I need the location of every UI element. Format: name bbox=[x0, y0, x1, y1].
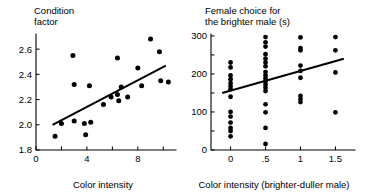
y-tick-label: 2.6 bbox=[19, 44, 32, 55]
scatter-point bbox=[135, 66, 140, 71]
x-tick-label: 1 bbox=[298, 153, 303, 164]
y-tick-label: 100 bbox=[191, 106, 207, 117]
y-tick-label: 200 bbox=[191, 68, 207, 79]
scatter-point bbox=[115, 92, 120, 97]
scatter-point bbox=[228, 114, 233, 119]
scatter-point bbox=[263, 126, 268, 131]
axis-frame bbox=[36, 34, 176, 150]
scatter-point bbox=[263, 64, 268, 69]
x-tick-label: 1.5 bbox=[329, 153, 342, 164]
scatter-point bbox=[333, 70, 338, 75]
scatter-point bbox=[263, 89, 268, 94]
scatter-point bbox=[333, 110, 338, 115]
scatter-point bbox=[59, 121, 64, 126]
scatter-point bbox=[116, 98, 121, 103]
x-tick-label: 8 bbox=[135, 153, 140, 164]
x-tick-label: 0 bbox=[33, 153, 38, 164]
panel-title-line-1: Condition bbox=[34, 5, 74, 16]
scatter-point bbox=[298, 35, 303, 40]
y-tick-label: 2.4 bbox=[19, 69, 32, 80]
scatter-points bbox=[228, 35, 338, 147]
scatter-point bbox=[82, 121, 87, 126]
panel-title-line-2: the brighter male (s) bbox=[205, 16, 290, 27]
scatter-point bbox=[263, 44, 268, 49]
y-tick-label: 2.0 bbox=[19, 119, 32, 130]
scatter-point bbox=[88, 120, 93, 125]
scatter-point bbox=[228, 110, 233, 115]
scatter-point bbox=[83, 132, 88, 137]
scatter-point bbox=[228, 65, 233, 70]
scatter-point bbox=[166, 79, 171, 84]
scatter-point bbox=[263, 102, 268, 107]
scatter-point bbox=[139, 83, 144, 88]
scatter-point bbox=[125, 95, 130, 100]
scatter-point bbox=[298, 68, 303, 73]
scatter-point bbox=[298, 75, 303, 80]
scatter-point bbox=[87, 83, 92, 88]
scatter-point bbox=[333, 48, 338, 53]
scatter-point bbox=[263, 142, 268, 147]
scatter-point bbox=[115, 55, 120, 60]
scatter-point bbox=[263, 40, 268, 45]
regression-line bbox=[53, 66, 166, 125]
panel-female-choice: Female choice for the brighter male (s) … bbox=[183, 0, 366, 195]
panel-title-line-2: factor bbox=[34, 16, 58, 27]
scatter-point bbox=[263, 52, 268, 57]
x-axis-tick-labels: 0.511.5 bbox=[228, 153, 342, 164]
scatter-point bbox=[109, 95, 114, 100]
x-axis-label: Color intensity bbox=[73, 179, 133, 190]
scatter-point bbox=[101, 102, 106, 107]
scatter-point bbox=[228, 129, 233, 134]
y-axis-tick-labels: 0100200300 bbox=[191, 30, 207, 155]
x-axis-label: Color intensity (brighter-duller male) bbox=[199, 179, 350, 190]
x-tick-label: 0 bbox=[228, 153, 233, 164]
y-tick-label: 2.2 bbox=[19, 94, 32, 105]
y-tick-label: 0 bbox=[202, 144, 207, 155]
y-tick-label: 300 bbox=[191, 30, 207, 41]
scatter-point bbox=[263, 35, 268, 40]
regression-line bbox=[222, 59, 344, 93]
scatter-point bbox=[298, 48, 303, 53]
chart-condition-factor: Condition factor 1.82.02.22.42.6 048 Col… bbox=[0, 0, 183, 195]
figure-two-scatter-panels: Condition factor 1.82.02.22.42.6 048 Col… bbox=[0, 0, 366, 195]
scatter-point bbox=[228, 60, 233, 65]
x-tick-label: .5 bbox=[262, 153, 270, 164]
scatter-point bbox=[263, 110, 268, 115]
scatter-point bbox=[158, 78, 163, 83]
scatter-point bbox=[228, 94, 233, 99]
panel-title-line-1: Female choice for bbox=[205, 5, 281, 16]
scatter-point bbox=[148, 37, 153, 42]
scatter-points bbox=[53, 37, 171, 139]
x-tick-label: 4 bbox=[84, 153, 89, 164]
chart-female-choice: Female choice for the brighter male (s) … bbox=[183, 0, 366, 195]
scatter-point bbox=[228, 134, 233, 139]
scatter-point bbox=[53, 134, 58, 139]
scatter-point bbox=[72, 82, 77, 87]
scatter-point bbox=[228, 120, 233, 125]
x-axis-tick-labels: 048 bbox=[33, 153, 140, 164]
scatter-point bbox=[119, 84, 124, 89]
scatter-point bbox=[70, 53, 75, 58]
y-tick-label: 1.8 bbox=[19, 144, 32, 155]
scatter-point bbox=[333, 35, 338, 40]
scatter-point bbox=[298, 63, 303, 68]
scatter-point bbox=[228, 87, 233, 92]
panel-condition-factor: Condition factor 1.82.02.22.42.6 048 Col… bbox=[0, 0, 183, 195]
scatter-point bbox=[298, 100, 303, 105]
y-axis-tick-labels: 1.82.02.22.42.6 bbox=[19, 44, 32, 156]
scatter-point bbox=[157, 49, 162, 54]
scatter-point bbox=[72, 119, 77, 124]
